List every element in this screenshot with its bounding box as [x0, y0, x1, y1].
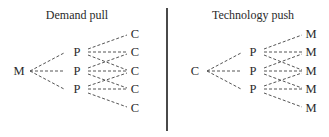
demand-pull-middle-node-3: P	[74, 83, 81, 96]
technology-push-leaf-node-4: M	[305, 83, 316, 96]
demand-pull-leaf-node-4: C	[131, 83, 139, 96]
demand-pull-leaf-node-5: C	[131, 102, 139, 115]
technology-push-root-node: C	[191, 65, 199, 78]
demand-pull-leaf-node-1: C	[131, 28, 139, 41]
technology-push-leaf-node-1: M	[305, 28, 316, 41]
technology-push-middle-node-1: P	[250, 46, 257, 59]
panel-divider	[166, 8, 168, 131]
demand-pull-middle-node-2: P	[74, 65, 81, 78]
demand-pull-title: Demand pull	[46, 9, 108, 21]
demand-pull-leaf-node-3: C	[131, 65, 139, 78]
technology-push-middle-node-3: P	[250, 83, 257, 96]
technology-push-middle-node-2: P	[250, 65, 257, 78]
demand-pull-middle-node-1: P	[74, 46, 81, 59]
demand-pull-leaf-node-2: C	[131, 46, 139, 59]
technology-push-title: Technology push	[212, 9, 294, 21]
technology-push-leaf-node-2: M	[305, 46, 316, 59]
technology-push-leaf-node-3: M	[305, 65, 316, 78]
demand-pull-root-node: M	[13, 65, 24, 78]
technology-push-leaf-node-5: M	[305, 102, 316, 115]
